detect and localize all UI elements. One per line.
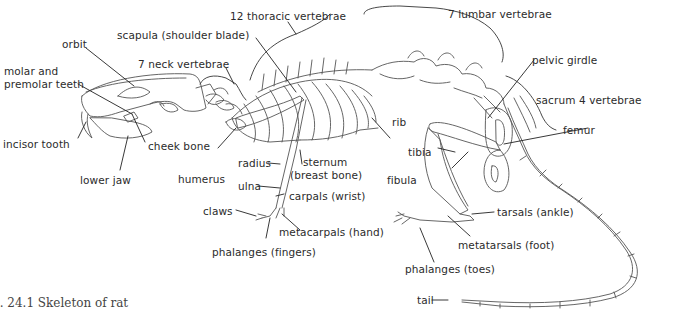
label-orbit: orbit <box>62 38 87 50</box>
label-claws: claws <box>203 205 233 217</box>
neck-vertebrae-outline <box>206 94 242 114</box>
label-cheek-bone: cheek bone <box>148 140 210 152</box>
label-femur: femur <box>563 124 595 136</box>
label-phalanges-fingers: phalanges (fingers) <box>212 246 316 258</box>
label-phalanges-toes: phalanges (toes) <box>405 263 495 275</box>
label-neck-vertebrae: 7 neck vertebrae <box>138 58 229 70</box>
tail-outline <box>462 96 637 308</box>
label-lower-jaw: lower jaw <box>80 174 131 186</box>
rat-skeleton-figure: orbit scapula (shoulder blade) 12 thorac… <box>0 0 677 316</box>
label-humerus: humerus <box>178 173 225 185</box>
label-radius: radius <box>238 157 271 169</box>
label-metatarsals: metatarsals (foot) <box>458 239 554 251</box>
label-pelvic-girdle: pelvic girdle <box>532 54 597 66</box>
label-tail: tail <box>417 294 434 306</box>
skull-outline <box>81 74 228 138</box>
label-sternum-line1: sternum <box>303 156 347 168</box>
label-ulna: ulna <box>238 180 261 192</box>
label-thoracic-vertebrae: 12 thoracic vertebrae <box>230 10 346 22</box>
label-sacrum: sacrum 4 vertebrae <box>536 94 641 106</box>
lumbar-vertebrae-outline <box>372 51 504 118</box>
label-tibia: tibia <box>408 146 432 158</box>
label-carpals: carpals (wrist) <box>289 190 365 202</box>
label-rib: rib <box>392 116 406 128</box>
thoracic-bracket <box>250 14 330 80</box>
label-tarsals: tarsals (ankle) <box>497 206 574 218</box>
label-incisor-tooth: incisor tooth <box>3 138 70 150</box>
label-fibula: fibula <box>387 174 417 186</box>
label-molar-line2: premolar teeth <box>4 78 84 90</box>
label-metacarpals: metacarpals (hand) <box>279 226 384 238</box>
hindlimb-outline <box>394 108 512 224</box>
label-lumbar-vertebrae: 7 lumbar vertebrae <box>448 8 552 20</box>
label-molar-line1: molar and <box>4 65 58 77</box>
label-sternum-line2: (breast bone) <box>290 169 362 181</box>
brackets <box>200 6 556 130</box>
label-scapula: scapula (shoulder blade) <box>117 29 249 41</box>
figure-caption: g. 24.1 Skeleton of rat <box>0 296 128 310</box>
